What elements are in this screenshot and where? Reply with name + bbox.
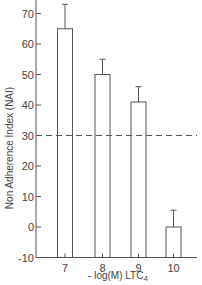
chart: -10010203040506070 78910 Non Adherence I… bbox=[0, 0, 202, 285]
bar bbox=[58, 29, 73, 258]
y-tick-label: 0 bbox=[28, 221, 34, 233]
y-tick-label: 60 bbox=[22, 38, 34, 50]
x-tick-label: 7 bbox=[62, 262, 68, 274]
y-tick-label: 40 bbox=[22, 99, 34, 111]
y-tick-label: -10 bbox=[18, 252, 34, 264]
y-tick-label: 70 bbox=[22, 8, 34, 20]
y-tick-label: 20 bbox=[22, 160, 34, 172]
x-tick-label: 10 bbox=[167, 262, 179, 274]
y-tick-label: 10 bbox=[22, 191, 34, 203]
bar bbox=[166, 227, 181, 258]
y-tick-label: 50 bbox=[22, 69, 34, 81]
x-axis-title: - log(M) LTC4 bbox=[88, 270, 148, 283]
bars bbox=[58, 4, 182, 257]
bar bbox=[95, 75, 110, 258]
y-axis: -10010203040506070 bbox=[18, 0, 41, 264]
y-tick-label: 30 bbox=[22, 130, 34, 142]
y-axis-title: Non Adherence Index (NAI) bbox=[4, 87, 15, 209]
bar bbox=[131, 102, 146, 258]
